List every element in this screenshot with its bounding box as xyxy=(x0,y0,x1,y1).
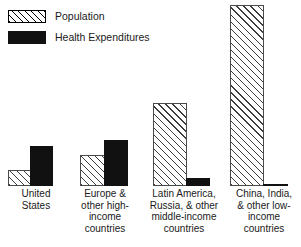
bar-group-united-states xyxy=(8,0,53,186)
bar-health-expenditures-latin-america-middle-income xyxy=(186,178,210,186)
category-label-line: Russia, & other xyxy=(142,200,226,212)
category-label-line: middle-income xyxy=(142,211,226,223)
plot-area xyxy=(0,0,301,186)
category-label-line: States xyxy=(4,200,68,212)
bar-population-china-india-low-income xyxy=(230,5,264,186)
category-label-line: United xyxy=(4,188,68,200)
bar-health-expenditures-europe-high-income xyxy=(104,140,128,186)
bar-group-china-india-low-income xyxy=(230,0,288,186)
category-label-line: countries xyxy=(142,223,226,235)
category-axis-labels: United States Europe & other high- incom… xyxy=(0,188,301,247)
bar-group-europe-high-income xyxy=(80,0,128,186)
category-label-line: Europe & xyxy=(72,188,138,200)
category-label-line: countries xyxy=(72,223,138,235)
category-label-line: income xyxy=(72,211,138,223)
bar-chart: Population Health Expenditures United xyxy=(0,0,301,247)
category-label-line: Latin America, xyxy=(142,188,226,200)
bar-group-latin-america-middle-income xyxy=(153,0,210,186)
category-label-line: other high- xyxy=(72,200,138,212)
category-label-line: & other low- xyxy=(228,200,300,212)
category-label-line: China, India, xyxy=(228,188,300,200)
category-label-united-states: United States xyxy=(4,188,68,211)
category-label-line: countries xyxy=(228,223,300,235)
bar-population-latin-america-middle-income xyxy=(153,103,187,186)
category-label-europe-high-income: Europe & other high- income countries xyxy=(72,188,138,234)
bar-population-united-states xyxy=(8,170,31,186)
category-label-line: income xyxy=(228,211,300,223)
category-label-china-india-low-income: China, India, & other low- income countr… xyxy=(228,188,300,234)
bar-health-expenditures-united-states xyxy=(30,146,53,186)
category-label-latin-america-middle-income: Latin America, Russia, & other middle-in… xyxy=(142,188,226,234)
bar-health-expenditures-china-india-low-income xyxy=(263,184,288,186)
bar-population-europe-high-income xyxy=(80,155,105,186)
